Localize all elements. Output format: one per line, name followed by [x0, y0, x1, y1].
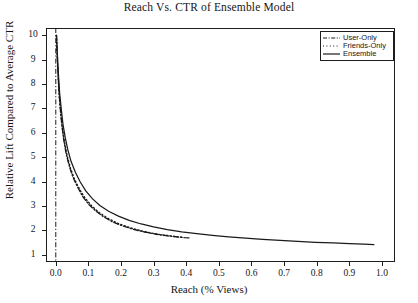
- chart-title: Reach Vs. CTR of Ensemble Model: [0, 1, 418, 13]
- x-tick-mark: [56, 262, 57, 266]
- legend-line-dotted-icon: [323, 42, 340, 50]
- x-tick-mark: [219, 262, 220, 266]
- plot-curves: [46, 28, 395, 262]
- x-tick-mark: [284, 262, 285, 266]
- x-tick-label: 0.1: [75, 268, 101, 278]
- y-tick-label: 4: [27, 176, 39, 186]
- y-tick-label: 10: [27, 29, 39, 39]
- x-tick-mark: [186, 262, 187, 266]
- y-tick-label: 9: [27, 54, 39, 64]
- chart-legend: User-Only Friends-Only Ensemble: [320, 31, 394, 61]
- x-tick-label: 0.5: [206, 268, 232, 278]
- x-tick-mark: [382, 262, 383, 266]
- x-tick-label: 1.0: [369, 268, 395, 278]
- x-tick-mark: [251, 262, 252, 266]
- y-tick-label: 2: [27, 224, 39, 234]
- legend-line-solid-icon: [323, 50, 340, 58]
- series-line-user-only: [56, 35, 188, 238]
- series-line-ensemble: [56, 35, 373, 244]
- x-axis-label: Reach (% Views): [0, 283, 418, 295]
- x-tick-label: 0.8: [304, 268, 330, 278]
- x-tick-label: 0.2: [108, 268, 134, 278]
- y-tick: 1: [0, 255, 46, 256]
- x-tick-label: 0.4: [173, 268, 199, 278]
- plot-area: [46, 28, 395, 262]
- y-tick-label: 3: [27, 200, 39, 210]
- series-line-friends-only: [56, 35, 183, 237]
- x-tick-mark: [88, 262, 89, 266]
- legend-line-dashdot-icon: [323, 34, 340, 42]
- x-tick-mark: [154, 262, 155, 266]
- y-axis-label: Relative Lift Compared to Average CTR: [3, 0, 15, 250]
- x-tick-label: 0.7: [271, 268, 297, 278]
- x-tick-label: 0.3: [141, 268, 167, 278]
- x-tick-label: 0.9: [336, 268, 362, 278]
- legend-label-ensemble: Ensemble: [343, 50, 376, 58]
- x-tick-label: 0.6: [238, 268, 264, 278]
- chart-figure: Reach Vs. CTR of Ensemble Model Relative…: [0, 0, 418, 303]
- y-tick-label: 5: [27, 151, 39, 161]
- x-tick-mark: [317, 262, 318, 266]
- y-tick-label: 7: [27, 102, 39, 112]
- y-tick-label: 1: [27, 249, 39, 259]
- y-tick-label: 6: [27, 127, 39, 137]
- x-tick-mark: [121, 262, 122, 266]
- y-tick-label: 8: [27, 78, 39, 88]
- x-tick-label: 0.0: [43, 268, 69, 278]
- x-tick-mark: [349, 262, 350, 266]
- legend-item-ensemble: Ensemble: [323, 50, 391, 58]
